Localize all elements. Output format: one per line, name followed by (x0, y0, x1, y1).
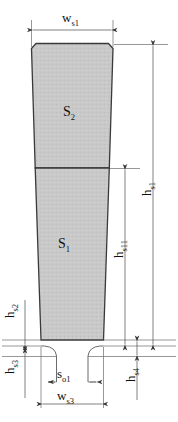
slot-geometry-diagram: ws1 S2 S1 hs1 hs11 hs2 hs3 hs4 so1 ws (0, 0, 178, 422)
slot-area-s1-shape (35, 168, 109, 340)
dimension-label-ws3: ws3 (57, 388, 74, 406)
slot-area-s2-shape (32, 44, 114, 169)
dimension-label-so1: so1 (57, 366, 71, 384)
dimension-label-hs11: hs11 (111, 240, 129, 258)
dimension-label-hs1: hs1 (139, 182, 157, 196)
dimension-label-hs4: hs4 (123, 367, 141, 382)
dimension-label-hs3: hs3 (2, 360, 20, 374)
slot-diagram-canvas: ws1 S2 S1 hs1 hs11 hs2 hs3 hs4 so1 ws (0, 0, 178, 422)
dimension-label-ws1: ws1 (62, 10, 79, 28)
dimension-label-hs2: hs2 (2, 304, 20, 318)
slot-neck-shape (2, 340, 176, 382)
